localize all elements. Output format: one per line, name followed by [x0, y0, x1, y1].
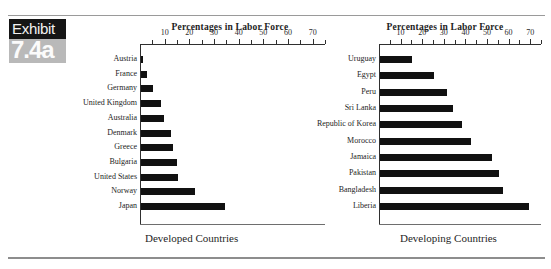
bar-row: Uruguay [380, 56, 412, 63]
bar-developed-9 [141, 188, 195, 195]
x-tick-developed-70 [313, 39, 314, 44]
bar-row: Morocco [380, 138, 471, 145]
bar-row: United Kingdom [141, 100, 161, 107]
x-tick-developed-40 [239, 39, 240, 44]
plot-area-developed: 10203040506070AustriaFranceGermanyUnited… [140, 44, 325, 225]
x-tick-label-developed-40: 40 [235, 28, 243, 37]
bar-category-label: Greece [114, 141, 137, 152]
bar-developed-6 [141, 144, 173, 151]
caption-developing: Developing Countries [400, 232, 497, 244]
bar-developed-0 [141, 56, 143, 63]
x-tick-developing-5 [390, 40, 391, 44]
bar-developing-4 [380, 121, 462, 128]
bar-row: Pakistan [380, 170, 499, 177]
bar-developing-2 [380, 89, 447, 96]
bar-row: Sri Lanka [380, 105, 453, 112]
bar-developed-4 [141, 115, 164, 122]
bar-category-label: Egypt [357, 69, 376, 80]
bar-category-label: United States [94, 171, 137, 182]
caption-developed: Developed Countries [145, 232, 238, 244]
bar-category-label: Jamaica [350, 151, 376, 162]
bar-row: France [141, 71, 147, 78]
bar-row: Peru [380, 89, 447, 96]
x-tick-developing-50 [487, 39, 488, 44]
x-tick-label-developing-10: 10 [397, 28, 405, 37]
bar-category-label: Austria [113, 53, 137, 64]
x-tick-developing-30 [444, 39, 445, 44]
x-tick-developed-60 [288, 39, 289, 44]
bar-row: Liberia [380, 203, 529, 210]
bar-row: Jamaica [380, 154, 492, 161]
x-tick-developing-65 [519, 40, 520, 44]
bar-category-label: Denmark [107, 127, 137, 138]
bar-category-label: Liberia [353, 200, 376, 211]
bar-row: Australia [141, 115, 164, 122]
bar-category-label: Bulgaria [109, 156, 137, 167]
x-tick-developing-60 [509, 39, 510, 44]
bar-developed-2 [141, 85, 153, 92]
bar-category-label: Pakistan [349, 167, 376, 178]
chart-panel-developing: Percentages in Labor Force 1020304050607… [327, 18, 545, 254]
x-tick-label-developing-70: 70 [526, 28, 534, 37]
x-tick-developed-75 [325, 40, 326, 44]
x-tick-developed-25 [202, 40, 203, 44]
x-tick-developed-5 [152, 40, 153, 44]
chart-panel-developed: Percentages in Labor Force 1020304050607… [60, 18, 330, 254]
x-tick-developing-70 [530, 39, 531, 44]
x-tick-developing-40 [465, 39, 466, 44]
plot-baseline-developed [140, 224, 325, 225]
bar-category-label: Morocco [347, 135, 376, 146]
x-tick-developing-20 [422, 39, 423, 44]
bottom-divider [8, 257, 545, 259]
bar-row: Republic of Korea [380, 121, 462, 128]
x-tick-label-developing-40: 40 [461, 28, 469, 37]
x-tick-developing-45 [476, 40, 477, 44]
bar-developing-0 [380, 56, 412, 63]
bar-row: Greece [141, 144, 173, 151]
x-tick-developed-15 [177, 40, 178, 44]
exhibit-number: 7.4a [11, 37, 54, 63]
bar-category-label: Norway [111, 185, 137, 196]
bar-row: Austria [141, 56, 143, 63]
bar-developing-7 [380, 170, 499, 177]
bar-category-label: Uruguay [348, 53, 376, 64]
bar-developing-5 [380, 138, 471, 145]
y-axis-line-developing [379, 44, 380, 225]
x-tick-label-developed-30: 30 [210, 28, 218, 37]
x-axis-line-developing [379, 44, 541, 45]
bar-developing-3 [380, 105, 453, 112]
bar-row: Germany [141, 85, 153, 92]
bar-category-label: France [115, 68, 137, 79]
x-tick-label-developed-50: 50 [259, 28, 267, 37]
x-tick-label-developing-50: 50 [483, 28, 491, 37]
bar-category-label: United Kingdom [83, 97, 137, 108]
x-tick-developed-35 [226, 40, 227, 44]
plot-area-developing: 10203040506070UruguayEgyptPeruSri LankaR… [379, 44, 541, 225]
x-tick-developed-50 [263, 39, 264, 44]
bar-developing-8 [380, 187, 503, 194]
x-tick-label-developing-20: 20 [418, 28, 426, 37]
bar-category-label: Japan [119, 200, 137, 211]
x-tick-developed-30 [214, 39, 215, 44]
bar-developing-6 [380, 154, 492, 161]
bar-row: Bangladesh [380, 187, 503, 194]
bar-category-label: Bangladesh [339, 184, 376, 195]
bar-row: Bulgaria [141, 159, 177, 166]
bar-developing-1 [380, 72, 434, 79]
x-axis-line-developed [140, 44, 325, 45]
plot-baseline-developing [379, 224, 541, 225]
bar-category-label: Sri Lanka [345, 102, 376, 113]
x-tick-label-developing-60: 60 [505, 28, 513, 37]
x-tick-label-developing-30: 30 [440, 28, 448, 37]
top-divider [8, 15, 545, 16]
x-tick-developed-10 [165, 39, 166, 44]
bar-developed-8 [141, 174, 178, 181]
x-tick-developed-65 [300, 40, 301, 44]
exhibit-badge: Exhibit 7.4a [9, 19, 66, 63]
x-tick-developing-15 [411, 40, 412, 44]
x-tick-developing-25 [433, 40, 434, 44]
x-tick-label-developed-10: 10 [161, 28, 169, 37]
x-tick-developing-35 [455, 40, 456, 44]
bar-developing-9 [380, 203, 529, 210]
bar-row: Denmark [141, 130, 171, 137]
